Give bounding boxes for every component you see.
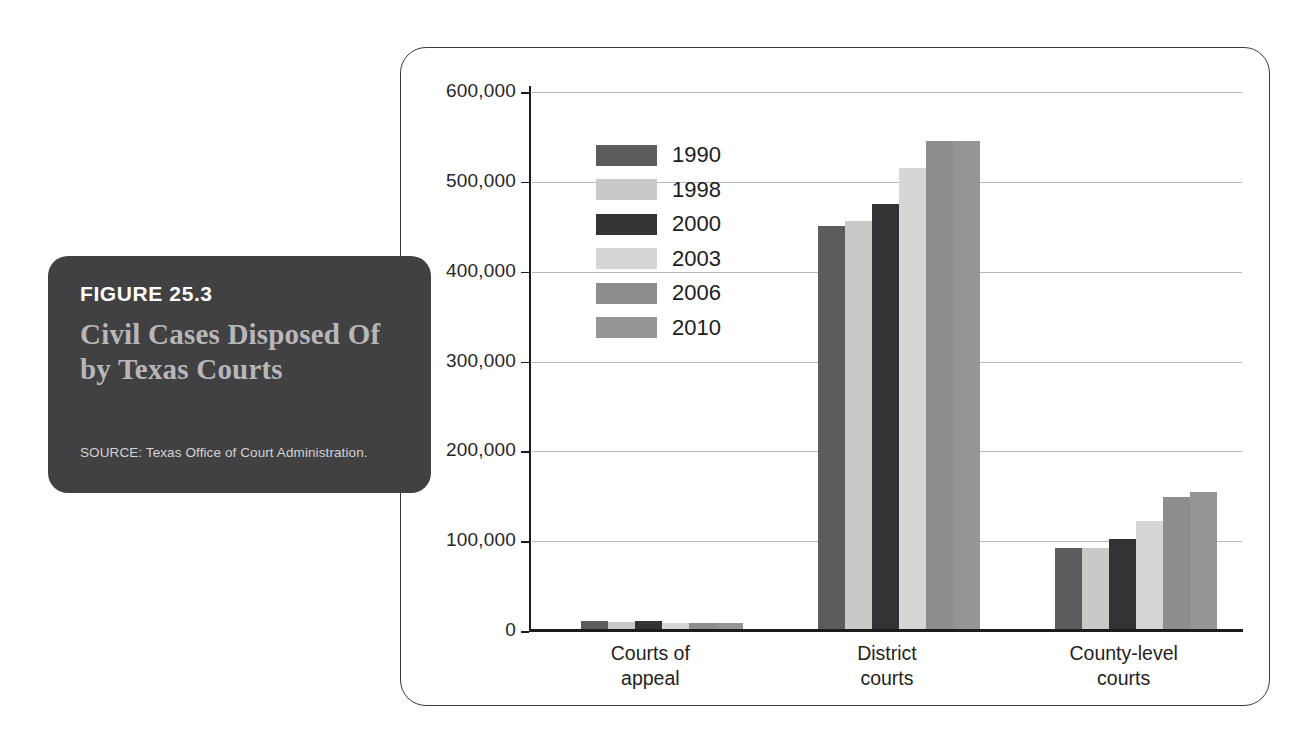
legend-label: 2010 xyxy=(672,317,721,339)
legend-label: 1990 xyxy=(672,144,721,166)
bar-2010-2 xyxy=(1190,492,1217,631)
x-axis-line xyxy=(529,629,1243,632)
legend-label: 2003 xyxy=(672,248,721,270)
y-tick-mark xyxy=(521,451,529,453)
y-tick-label: 600,000 xyxy=(446,80,516,102)
y-tick-label: 300,000 xyxy=(446,350,516,372)
figure-title: Civil Cases Disposed Of by Texas Courts xyxy=(80,317,403,388)
bar-2003-2 xyxy=(1136,521,1163,631)
legend-item-1990: 1990 xyxy=(596,138,721,173)
legend-item-2003: 2003 xyxy=(596,242,721,277)
bar-2006-2 xyxy=(1163,497,1190,631)
y-tick-label: 0 xyxy=(505,619,516,641)
bar-2000-2 xyxy=(1109,539,1136,631)
bar-1998-1 xyxy=(845,221,872,631)
bar-2003-1 xyxy=(899,168,926,631)
legend-swatch-icon xyxy=(596,283,657,304)
category-label: County-level courts xyxy=(1005,641,1242,691)
chart-legend: 199019982000200320062010 xyxy=(596,138,721,345)
figure-root: 0100,000200,000300,000400,000500,000600,… xyxy=(0,0,1316,746)
y-tick-mark xyxy=(521,631,529,633)
y-tick-mark xyxy=(521,92,529,94)
figure-caption-card: FIGURE 25.3 Civil Cases Disposed Of by T… xyxy=(48,256,431,493)
legend-swatch-icon xyxy=(596,145,657,166)
legend-item-2010: 2010 xyxy=(596,311,721,346)
bar-1998-2 xyxy=(1082,548,1109,631)
figure-source: SOURCE: Texas Office of Court Administra… xyxy=(80,445,368,460)
y-tick-label: 200,000 xyxy=(446,439,516,461)
bar-1990-2 xyxy=(1055,548,1082,631)
y-tick-mark xyxy=(521,362,529,364)
legend-label: 2000 xyxy=(672,213,721,235)
legend-swatch-icon xyxy=(596,248,657,269)
y-tick-mark xyxy=(521,272,529,274)
legend-item-2000: 2000 xyxy=(596,207,721,242)
legend-item-1998: 1998 xyxy=(596,173,721,208)
bar-2006-1 xyxy=(926,141,953,631)
legend-swatch-icon xyxy=(596,214,657,235)
y-tick-label: 400,000 xyxy=(446,260,516,282)
bar-2000-1 xyxy=(872,204,899,631)
legend-swatch-icon xyxy=(596,317,657,338)
y-axis-line xyxy=(529,86,531,632)
legend-swatch-icon xyxy=(596,179,657,200)
y-tick-mark xyxy=(521,541,529,543)
category-label: Courts of appeal xyxy=(532,641,769,691)
bar-2010-1 xyxy=(953,141,980,631)
bar-1990-1 xyxy=(818,226,845,631)
y-tick-label: 100,000 xyxy=(446,529,516,551)
legend-label: 2006 xyxy=(672,282,721,304)
legend-label: 1998 xyxy=(672,179,721,201)
y-tick-label: 500,000 xyxy=(446,170,516,192)
legend-item-2006: 2006 xyxy=(596,276,721,311)
figure-number: FIGURE 25.3 xyxy=(80,282,403,306)
category-label: District courts xyxy=(769,641,1006,691)
y-tick-mark xyxy=(521,182,529,184)
